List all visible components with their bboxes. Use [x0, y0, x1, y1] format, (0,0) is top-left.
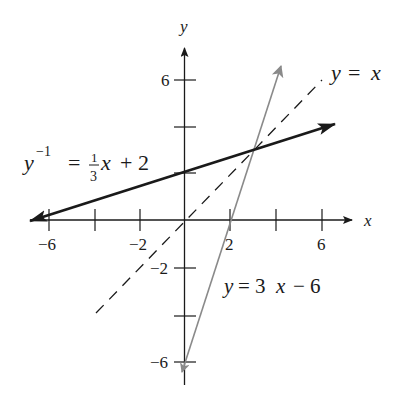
x-tick-label-6: 6	[317, 235, 326, 254]
svg-text:y: y	[329, 60, 341, 85]
function-inverse-graph: y x −6 −2 2 6 6 −2 −6 y −1 = 1 3 x + 2 y…	[0, 0, 396, 397]
svg-text:−1: −1	[36, 144, 51, 159]
svg-text:x: x	[370, 60, 381, 85]
svg-text:x: x	[275, 274, 286, 298]
x-tick-label-neg2: −2	[129, 235, 147, 254]
identity-label: y = x	[329, 60, 381, 85]
svg-text:3: 3	[90, 169, 97, 184]
svg-text:y: y	[22, 150, 34, 175]
y-tick-label-neg2: −2	[150, 259, 168, 278]
svg-text:=: =	[348, 60, 360, 85]
svg-text:y: y	[222, 274, 234, 298]
svg-text:− 6: − 6	[293, 274, 321, 298]
identity-line	[96, 80, 322, 313]
svg-text:= 3: = 3	[238, 274, 266, 298]
y-tick-label-neg6: −6	[150, 353, 168, 372]
x-tick-label-2: 2	[225, 235, 234, 254]
linear-function-line	[182, 66, 281, 372]
svg-text:x: x	[100, 150, 111, 175]
linear-function-label: y = 3 x − 6	[222, 274, 321, 298]
y-axis-label: y	[178, 17, 188, 36]
inverse-function-label: y −1 = 1 3 x + 2	[22, 144, 149, 184]
x-axis-label: x	[363, 211, 372, 230]
svg-text:=: =	[68, 150, 80, 175]
y-tick-label-6: 6	[161, 71, 170, 90]
svg-text:1: 1	[91, 150, 98, 165]
svg-text:+ 2: + 2	[120, 150, 149, 175]
x-tick-label-neg6: −6	[38, 235, 56, 254]
